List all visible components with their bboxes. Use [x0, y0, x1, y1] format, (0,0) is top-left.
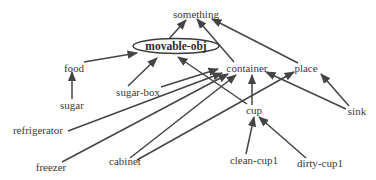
edge-clean-cup1-to-cup [246, 117, 254, 154]
node-clean-cup1: clean-cup1 [230, 154, 278, 166]
node-dirty-cup1: dirty-cup1 [297, 157, 343, 169]
semantic-hierarchy-diagram: something movable-obj food sugar sugar-b… [0, 0, 376, 180]
edge-sink-to-container [266, 72, 346, 109]
node-container: container [227, 62, 268, 74]
edge-place-to-something [212, 19, 298, 63]
edge-sugar-box-to-movable-obj [128, 58, 157, 86]
edge-refrigerator-to-container [68, 73, 222, 131]
node-cabinet: cabinet [109, 155, 141, 167]
node-sugar-box: sugar-box [116, 86, 160, 98]
node-food: food [64, 62, 85, 74]
node-freezer: freezer [36, 161, 67, 173]
edge-sink-to-place [321, 74, 349, 106]
node-sink: sink [348, 105, 367, 117]
edge-dirty-cup1-to-cup [259, 117, 306, 158]
node-sugar: sugar [60, 99, 84, 111]
edge-food-to-movable-obj [84, 53, 137, 62]
node-refrigerator: refrigerator [13, 124, 63, 136]
node-place: place [294, 62, 317, 74]
node-movable-obj: movable-obj [145, 40, 207, 53]
node-cup: cup [246, 104, 262, 116]
node-something: something [173, 8, 219, 20]
edge-cabinet-to-place [137, 72, 294, 160]
nodes: something movable-obj food sugar sugar-b… [13, 8, 367, 173]
edge-movable-obj-to-something [168, 20, 186, 40]
